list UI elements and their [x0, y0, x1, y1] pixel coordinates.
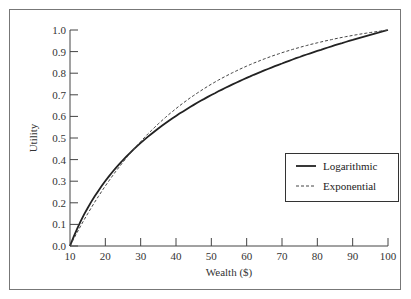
- y-tick-label: 0.8: [52, 67, 66, 79]
- x-tick-label: 20: [100, 250, 112, 262]
- y-tick-label: 0.2: [52, 197, 66, 209]
- legend-label-logarithmic: Logarithmic: [323, 160, 377, 172]
- y-tick-label: 0.7: [52, 89, 66, 101]
- x-tick-label: 50: [206, 250, 218, 262]
- x-tick-label: 100: [380, 250, 397, 262]
- x-tick-label: 10: [65, 250, 77, 262]
- x-axis-title: Wealth ($): [206, 266, 253, 279]
- y-tick-label: 0.1: [52, 218, 66, 230]
- y-tick-label: 0.5: [52, 132, 66, 144]
- x-tick-label: 40: [171, 250, 183, 262]
- legend: Logarithmic Exponential: [286, 154, 399, 202]
- x-tick-label: 80: [312, 250, 324, 262]
- y-tick-label: 1.0: [52, 24, 66, 36]
- x-tick-label: 30: [135, 250, 147, 262]
- x-tick-label: 90: [347, 250, 359, 262]
- y-tick-label: 0.3: [52, 175, 66, 187]
- x-tick-label: 70: [277, 250, 289, 262]
- chart-svg: 0.00.10.20.30.40.50.60.70.80.91.01020304…: [0, 0, 411, 299]
- x-tick-label: 60: [241, 250, 253, 262]
- y-tick-label: 0.9: [52, 46, 66, 58]
- legend-label-exponential: Exponential: [323, 180, 376, 192]
- y-axis-title: Utility: [27, 123, 39, 152]
- chart-frame: [10, 10, 401, 290]
- y-tick-label: 0.6: [52, 110, 66, 122]
- y-tick-label: 0.4: [52, 154, 66, 166]
